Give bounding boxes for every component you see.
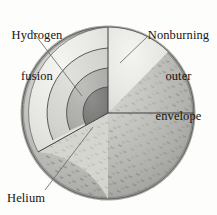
label-envelope-line3: envelope [142,110,215,124]
label-nonburning-outer-envelope: Nonburning outer envelope [142,2,215,151]
label-envelope-line1: Nonburning [142,29,215,43]
label-envelope-line2: outer [142,70,215,84]
label-hydrogen-line1: Hydrogen [3,29,71,43]
label-helium: Helium [7,192,45,206]
figure-canvas: Hydrogen fusion Nonburning outer envelop… [0,0,217,215]
label-hydrogen-fusion: Hydrogen fusion [3,2,71,110]
label-hydrogen-line2: fusion [3,70,71,84]
